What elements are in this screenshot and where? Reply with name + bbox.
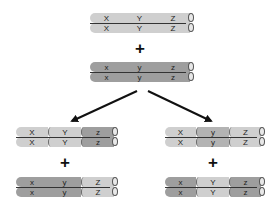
centromere-line — [165, 187, 257, 188]
gene-segment: z — [81, 127, 114, 137]
gene-label: X — [29, 128, 34, 137]
gene-segment: x — [165, 187, 196, 197]
gene-segment: Z — [229, 127, 261, 137]
recombinant-right-chromosome-2: x Y z x Y z — [165, 177, 261, 197]
chromatid-end-cap — [112, 177, 118, 186]
gene-label: Y — [210, 178, 215, 187]
gene-segment: Y — [196, 187, 229, 197]
gene-segment: z — [81, 137, 114, 147]
gene-label: Z — [96, 188, 101, 197]
gene-segment: x — [165, 177, 196, 187]
chromatid-end-cap — [112, 137, 118, 146]
gene-segment: Y — [196, 177, 229, 187]
gene-label: x — [30, 188, 34, 197]
chromatid-top: x Y z — [165, 177, 261, 187]
plus-sign: + — [208, 154, 218, 171]
gene-segment: Y — [48, 137, 81, 147]
gene-label: z — [244, 178, 248, 187]
gene-label: Z — [243, 138, 248, 147]
gene-segment: y — [48, 187, 81, 197]
plus-sign: + — [60, 154, 70, 171]
gene-segment: y — [48, 177, 81, 187]
gene-label: Y — [62, 138, 67, 147]
gene-segment: Z — [229, 137, 261, 147]
centromere-line — [16, 187, 110, 188]
chromatid-top: X Y z — [16, 127, 114, 137]
gene-label: z — [96, 138, 100, 147]
gene-segment: z — [229, 177, 261, 187]
gene-label: Y — [62, 128, 67, 137]
chromatid-end-cap — [112, 187, 118, 196]
recombinant-left-chromosome-1: X Y z X Y z — [16, 127, 114, 147]
gene-segment: x — [16, 177, 48, 187]
chromatid-end-cap — [259, 177, 265, 186]
gene-segment: Y — [48, 127, 81, 137]
gene-segment: y — [196, 137, 229, 147]
chromatid-end-cap — [259, 187, 265, 196]
chromatid-bottom: X Y z — [16, 137, 114, 147]
gene-label: Z — [243, 128, 248, 137]
chromatid-bottom: x Y z — [165, 187, 261, 197]
gene-segment: x — [16, 187, 48, 197]
gene-label: z — [96, 128, 100, 137]
gene-label: x — [179, 188, 183, 197]
gene-label: x — [179, 178, 183, 187]
gene-segment: z — [229, 187, 261, 197]
gene-segment: Z — [81, 177, 114, 187]
recombinant-left-chromosome-2: x y Z x y Z — [16, 177, 114, 197]
gene-segment: X — [16, 137, 48, 147]
gene-label: y — [63, 188, 67, 197]
centromere-line — [165, 137, 257, 138]
recombinant-right-chromosome-1: X y Z X y Z — [165, 127, 261, 147]
chromatid-end-cap — [259, 127, 265, 136]
chromatid-end-cap — [112, 127, 118, 136]
gene-label: y — [211, 138, 215, 147]
gene-label: Y — [210, 188, 215, 197]
gene-label: x — [30, 178, 34, 187]
chromatid-bottom: X y Z — [165, 137, 261, 147]
gene-label: z — [244, 188, 248, 197]
gene-label: X — [178, 138, 183, 147]
centromere-line — [16, 137, 110, 138]
gene-label: X — [178, 128, 183, 137]
gene-label: X — [29, 138, 34, 147]
chromatid-top: X y Z — [165, 127, 261, 137]
gene-segment: y — [196, 127, 229, 137]
gene-segment: X — [165, 127, 196, 137]
gene-segment: Z — [81, 187, 114, 197]
gene-label: y — [63, 178, 67, 187]
chromatid-top: x y Z — [16, 177, 114, 187]
arrow-left-icon — [72, 91, 137, 121]
chromatid-end-cap — [259, 137, 265, 146]
chromatid-bottom: x y Z — [16, 187, 114, 197]
arrow-right-icon — [148, 91, 211, 121]
gene-segment: X — [165, 137, 196, 147]
gene-label: y — [211, 128, 215, 137]
gene-label: Z — [96, 178, 101, 187]
gene-segment: X — [16, 127, 48, 137]
